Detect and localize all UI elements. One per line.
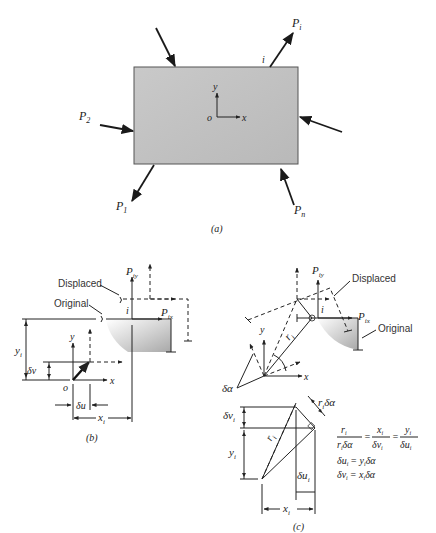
force-arrow-Pn <box>281 169 294 205</box>
x-axis-label: x <box>303 371 309 382</box>
label-original: Original <box>378 323 412 334</box>
caption-a: (a) <box>211 223 223 235</box>
panel-a: y x o i Pi P2 P1 Pn (a) <box>78 16 342 235</box>
label-displaced: Displaced <box>352 273 396 284</box>
node-i-label: i <box>262 54 265 65</box>
label-ri: ri <box>281 330 297 344</box>
node-i-label: i <box>126 305 129 316</box>
eq-ratio-mid-den: δvi <box>372 439 383 451</box>
label-xi: xi <box>97 411 105 426</box>
label-Piy: Piy <box>125 265 139 280</box>
label-P1: P1 <box>115 199 127 215</box>
label-Pi: Pi <box>291 16 302 32</box>
label-Piy: Piy <box>311 264 325 279</box>
panel-c: Piy Pix i Displaced Original y x ri δα δ… <box>222 264 418 533</box>
origin-label: o <box>63 382 68 393</box>
label-dvi: δvi <box>223 409 235 424</box>
force-arrow-P1 <box>132 165 154 201</box>
equations: ri riδα = xi δvi = yi δui δui= yiδα δvi=… <box>337 424 418 481</box>
caption-c: (c) <box>293 521 305 533</box>
label-yi: yi <box>14 344 22 359</box>
eq-sign: = <box>364 431 371 442</box>
force-arrow-Pi <box>270 33 293 67</box>
eq-ratio-lhs-den: riδα <box>337 439 353 451</box>
force-arrow-right <box>300 117 342 132</box>
panel-b: Piy Pix i Displaced Original y x o yi δv… <box>14 264 192 444</box>
label-displaced: Displaced <box>58 278 102 289</box>
node-i-label: i <box>321 304 324 315</box>
label-Pn: Pn <box>293 203 305 219</box>
eq-sign-2: = <box>392 431 399 442</box>
y-axis-label: y <box>212 81 218 92</box>
label-P2: P2 <box>78 109 90 125</box>
eq-ratio-mid-num: xi <box>376 424 383 436</box>
y-axis-label: y <box>69 331 75 342</box>
displacement-arrow <box>73 362 89 380</box>
label-dalpha: δα <box>222 382 233 394</box>
eq-dui: δui= yiδα <box>337 455 376 467</box>
x-axis-label: x <box>109 375 115 386</box>
y-axis-label: y <box>259 324 265 335</box>
force-arrow-top <box>156 28 175 66</box>
label-dui: δui <box>297 469 310 484</box>
label-ri-dalpha: riδα <box>318 396 335 411</box>
eq-ratio-lhs-num: ri <box>341 424 347 436</box>
label-dv: δv <box>27 365 37 376</box>
original-body <box>106 320 171 352</box>
figure-canvas: y x o i Pi P2 P1 Pn (a) Piy Pix i Displa… <box>0 0 436 533</box>
label-yi: yi <box>228 446 236 461</box>
eq-dvi: δvi= xiδα <box>337 469 376 481</box>
label-xi: xi <box>282 502 290 517</box>
label-du: δu <box>76 400 86 411</box>
force-arrow-P2 <box>100 125 133 131</box>
caption-b: (b) <box>86 432 98 444</box>
origin-label: o <box>207 112 212 123</box>
label-original: Original <box>54 298 88 309</box>
x-axis-label: x <box>241 112 247 123</box>
eq-ratio-rhs-num: yi <box>404 424 411 436</box>
eq-ratio-rhs-den: δui <box>400 439 412 451</box>
label-Pix: Pix <box>357 310 371 325</box>
label-ri-lower: ri <box>263 431 279 444</box>
